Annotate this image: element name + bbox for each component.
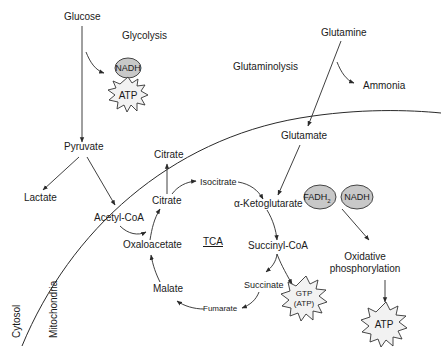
- acetyl-coa-label: Acetyl-CoA: [94, 212, 144, 223]
- cytosol-label: Cytosol: [11, 305, 22, 338]
- oxphos-label-line2: phosphorylation: [330, 263, 401, 274]
- citrate-to-isocitrate-arrow: [172, 181, 196, 194]
- citrate-cytosol-label: Citrate: [154, 149, 184, 160]
- atp-glycolysis-label: ATP: [119, 90, 138, 101]
- glutamate-label: Glutamate: [281, 130, 328, 141]
- fumarate-to-malate-arrow: [177, 301, 204, 309]
- nadh-glycolysis-label: NADH: [115, 63, 141, 73]
- nadh-tca-label: NADH: [344, 192, 370, 202]
- akg-to-succinylcoa-arrow: [267, 210, 277, 240]
- oxaloacetate-label: Oxaloacetate: [123, 239, 182, 250]
- pyruvate-to-lactate-arrow: [43, 157, 79, 190]
- malate-to-oxaloacetate-arrow: [151, 255, 160, 282]
- gtp-atp-label: (ATP): [294, 299, 315, 308]
- acetylcoa-to-citrate-arrow: [120, 226, 146, 234]
- succinylcoa-to-succinate-arrow: [266, 254, 277, 272]
- tca-label: TCA: [203, 236, 223, 247]
- alpha-ketoglutarate-label: α-Ketoglutarate: [234, 198, 303, 209]
- ammonia-label: Ammonia: [363, 80, 406, 91]
- oxaloacetate-to-citrate-arrow: [150, 209, 160, 240]
- malate-label: Malate: [153, 283, 183, 294]
- metabolism-diagram: Cytosol Mitochondria Glucose Glycolysis …: [0, 0, 441, 351]
- citrate-label: Citrate: [152, 195, 182, 206]
- mitochondria-label: Mitochondria: [48, 280, 59, 338]
- pyruvate-label: Pyruvate: [64, 141, 104, 152]
- isocitrate-to-akg-arrow: [238, 182, 263, 199]
- atp-oxphos-label: ATP: [375, 319, 394, 330]
- succinate-to-fumarate-arrow: [242, 292, 259, 308]
- glucose-label: Glucose: [64, 11, 101, 22]
- lactate-label: Lactate: [24, 192, 57, 203]
- isocitrate-label: Isocitrate: [200, 177, 237, 187]
- glutaminolysis-label: Glutaminolysis: [233, 61, 298, 72]
- pyruvate-to-acetylcoa-arrow: [87, 157, 115, 205]
- gtp-label: GTP: [296, 289, 312, 298]
- glycolysis-nadh-arrow: [86, 52, 104, 73]
- glutamate-to-akg-arrow: [278, 145, 300, 195]
- glutamine-label: Glutamine: [321, 27, 367, 38]
- oxphos-label-line1: Oxidative: [344, 251, 386, 262]
- succinyl-coa-label: Succinyl-CoA: [248, 240, 308, 251]
- succinate-label: Succinate: [244, 280, 284, 290]
- glutamine-to-ammonia-arrow: [337, 62, 354, 83]
- nadh-to-oxphos-arrow: [342, 209, 369, 240]
- fumarate-label: Fumarate: [203, 304, 238, 313]
- glycolysis-label: Glycolysis: [122, 30, 167, 41]
